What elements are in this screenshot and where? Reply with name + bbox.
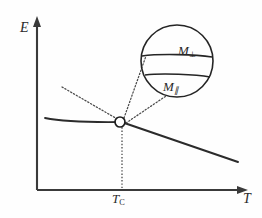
parallel-symbol: M <box>163 79 174 94</box>
perpendicular-subscript: ⊥ <box>189 50 196 59</box>
inset-leader-left-dotted <box>124 56 146 118</box>
y-axis-label: E <box>20 21 29 35</box>
figure-canvas <box>0 0 262 218</box>
parallel-subscript: ∥ <box>174 85 178 95</box>
inset-lower-chord <box>145 74 210 77</box>
crossover-point-marker <box>115 117 125 127</box>
energy-vs-temperature-figure: E T TC M⊥ M∥ <box>0 0 262 218</box>
y-axis-arrowhead <box>33 16 41 27</box>
inset-leader-right-dotted <box>126 96 166 123</box>
low-temperature-tangent-dotted <box>62 87 119 120</box>
perpendicular-symbol: M <box>178 43 189 58</box>
high-temperature-branch-line <box>120 122 238 163</box>
parallel-magnetization-label: M∥ <box>163 80 178 95</box>
inset-upper-chord <box>142 55 212 57</box>
perpendicular-magnetization-label: M⊥ <box>178 44 196 59</box>
critical-temperature-label: TC <box>112 192 125 207</box>
critical-temperature-subscript: C <box>119 198 125 207</box>
low-temperature-branch-curve <box>45 118 122 122</box>
x-axis-label: T <box>243 192 251 206</box>
